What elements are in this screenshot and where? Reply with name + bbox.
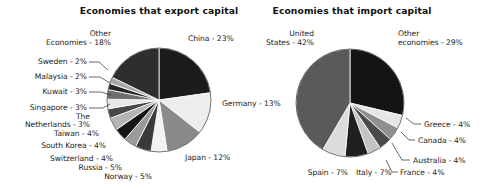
label-other-economies-line2: Economies - 18% — [46, 38, 111, 47]
label-other-economies-line1: Other — [90, 29, 112, 38]
label-other-economies-import-line1: Other — [398, 29, 420, 38]
label-greece: Greece - 4% — [424, 120, 470, 129]
chart-title-export: Economies that export capital — [80, 5, 238, 16]
label-germany: Germany - 13% — [222, 99, 281, 108]
label-sweden: Sweden - 2% — [38, 57, 87, 66]
label-norway: Norway - 5% — [104, 172, 152, 181]
pie-wedges-export — [107, 48, 211, 152]
label-china: China - 23% — [188, 34, 234, 43]
pie-wedges-import — [296, 49, 404, 157]
label-russia: Russia - 5% — [79, 163, 123, 172]
label-australia: Australia - 4% — [413, 156, 466, 165]
label-other-economies-import-line2: economies - 29% — [398, 38, 463, 47]
chart-title-import: Economies that import capital — [273, 5, 432, 16]
label-singapore: Singapore - 3% — [30, 103, 87, 112]
label-netherlands-line2: Netherlands - 3% — [25, 120, 90, 129]
label-spain: Spain - 7% — [308, 168, 348, 177]
label-united-states-line1: United — [289, 29, 314, 38]
label-united-states-line2: States - 42% — [266, 38, 314, 47]
pie-chart-figure: Economies that export capital China - 23… — [0, 0, 491, 189]
label-taiwan: Taiwan - 4% — [53, 129, 99, 138]
label-malaysia: Malaysia - 2% — [35, 72, 87, 81]
label-italy: Italy - 7% — [356, 168, 392, 177]
label-canada: Canada - 4% — [418, 136, 466, 145]
label-switzerland: Switzerland - 4% — [50, 154, 113, 163]
label-kuwait: Kuwait - 3% — [43, 87, 87, 96]
label-south-korea: South Korea - 4% — [41, 141, 106, 150]
label-france: France - 4% — [400, 168, 444, 177]
label-japan: Japan - 12% — [184, 153, 230, 162]
